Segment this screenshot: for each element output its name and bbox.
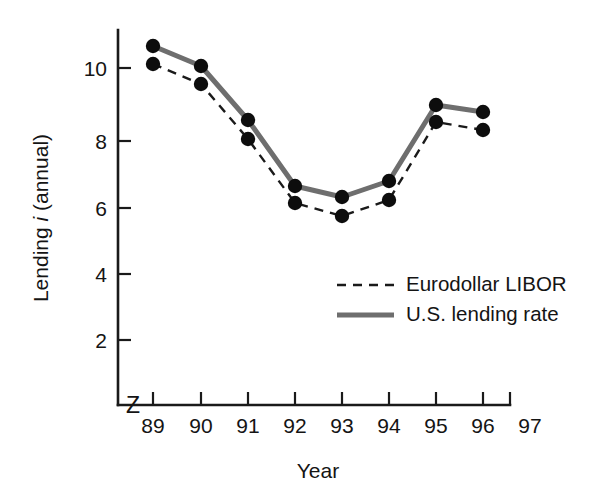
x-tick-label-90: 90 — [189, 414, 212, 437]
line-chart-canvas: 10 8 6 4 2 Z 89 90 91 92 93 94 95 — [0, 0, 590, 494]
legend-label-us-lending-rate: U.S. lending rate — [406, 302, 559, 325]
y-tick-label-2: 2 — [95, 329, 107, 352]
axes-group — [118, 30, 510, 405]
chart-figure: 10 8 6 4 2 Z 89 90 91 92 93 94 95 — [0, 0, 590, 494]
data-point — [241, 132, 255, 146]
y-tick-group — [118, 68, 131, 340]
x-tick-label-96: 96 — [471, 414, 494, 437]
y-tick-label-6: 6 — [95, 197, 107, 220]
x-tick-label-92: 92 — [283, 414, 306, 437]
y-tick-label-10: 10 — [84, 57, 107, 80]
x-tick-group — [153, 392, 510, 405]
y-tick-label-4: 4 — [95, 263, 107, 286]
y-tick-labels: 10 8 6 4 2 — [84, 57, 108, 352]
legend-label-eurodollar-libor: Eurodollar LIBOR — [406, 272, 567, 295]
x-tick-label-94: 94 — [377, 414, 401, 437]
y-tick-label-8: 8 — [95, 130, 107, 153]
legend: Eurodollar LIBOR U.S. lending rate — [337, 272, 567, 325]
data-point — [382, 174, 396, 188]
x-axis-title: Year — [297, 459, 339, 482]
x-tick-label-95: 95 — [424, 414, 447, 437]
x-tick-label-93: 93 — [330, 414, 353, 437]
y-axis-title-group: Lending i (annual) — [29, 134, 52, 302]
data-point — [288, 196, 302, 210]
data-point — [476, 123, 490, 137]
x-tick-label-97: 97 — [518, 414, 541, 437]
data-point — [429, 98, 443, 112]
data-point — [288, 179, 302, 193]
data-point — [429, 115, 443, 129]
y-axis-title-prefix: Lending — [29, 221, 52, 302]
series-eurodollar-libor — [146, 57, 490, 223]
data-point — [146, 57, 160, 71]
data-point — [194, 77, 208, 91]
x-tick-label-89: 89 — [141, 414, 164, 437]
axis-break-symbol: Z — [126, 392, 140, 418]
x-tick-labels: 89 90 91 92 93 94 95 96 97 — [141, 414, 541, 437]
legend-item-eurodollar-libor[interactable]: Eurodollar LIBOR — [337, 272, 567, 295]
x-tick-label-91: 91 — [236, 414, 259, 437]
data-point — [241, 113, 255, 127]
data-point — [146, 39, 160, 53]
data-point — [194, 59, 208, 73]
data-point — [382, 193, 396, 207]
legend-item-us-lending-rate[interactable]: U.S. lending rate — [337, 302, 559, 325]
y-axis-title: Lending i (annual) — [29, 134, 52, 302]
y-axis-title-suffix: (annual) — [29, 134, 52, 217]
data-point — [335, 190, 349, 204]
data-point — [335, 209, 349, 223]
data-point — [476, 105, 490, 119]
